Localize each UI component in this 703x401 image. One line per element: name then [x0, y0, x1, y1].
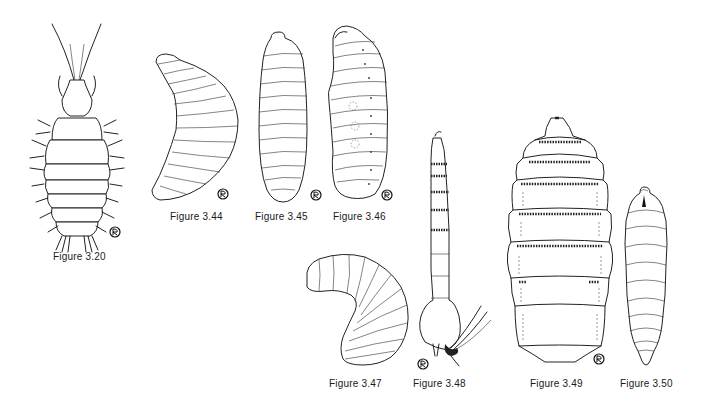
figure-3-20: [0, 0, 140, 260]
artist-signature-icon: [150, 40, 250, 200]
artist-signature-icon: [325, 22, 395, 202]
artist-signature-icon: [505, 118, 615, 368]
figure-3-48: [415, 130, 495, 370]
caption-figure-3-20: Figure 3.20: [53, 251, 106, 262]
artist-signature-icon: [255, 30, 315, 205]
caption-figure-3-47: Figure 3.47: [329, 378, 382, 389]
figure-3-46: [325, 22, 395, 202]
figure-3-44: [150, 40, 250, 200]
caption-figure-3-48: Figure 3.48: [413, 378, 466, 389]
artist-signature-icon: [0, 0, 140, 260]
caption-figure-3-50: Figure 3.50: [620, 378, 673, 389]
figure-3-45: [255, 30, 315, 205]
caption-figure-3-46: Figure 3.46: [333, 211, 386, 222]
figure-3-49: [505, 118, 615, 368]
figure-3-50: [620, 185, 670, 370]
tapered-maggot-drawing: [620, 185, 670, 370]
caption-figure-3-49: Figure 3.49: [530, 378, 583, 389]
c-shaped-grub-drawing: [303, 243, 413, 368]
figure-3-47: [303, 243, 413, 368]
caption-figure-3-44: Figure 3.44: [170, 211, 223, 222]
artist-signature-icon: [415, 130, 495, 370]
caption-figure-3-45: Figure 3.45: [255, 211, 308, 222]
